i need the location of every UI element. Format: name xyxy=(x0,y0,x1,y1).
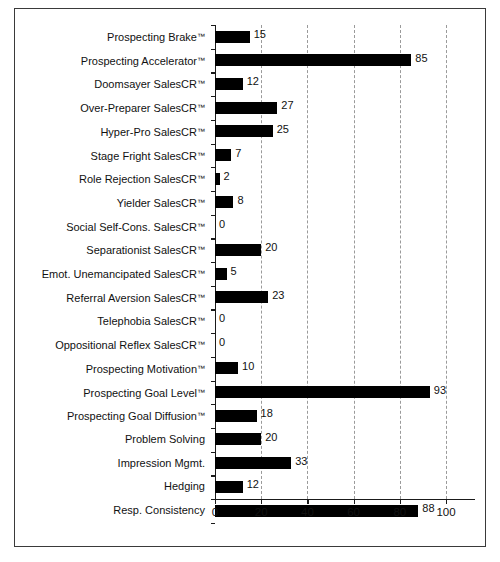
category-axis-tick xyxy=(211,286,215,287)
bar-row: 20 xyxy=(215,428,475,452)
category-label: Referral Aversion SalesCR™ xyxy=(33,286,209,310)
bar-value-label: 20 xyxy=(265,241,277,254)
bar-row: 18 xyxy=(215,404,475,428)
bar xyxy=(215,149,231,161)
category-axis-labels: Prospecting Brake™Prospecting Accelerato… xyxy=(33,25,209,499)
category-axis-tick xyxy=(211,72,215,73)
bar xyxy=(215,102,277,114)
category-label: Problem Solving xyxy=(33,428,209,452)
category-label: Prospecting Goal Level™ xyxy=(33,381,209,405)
bar-row: 5 xyxy=(215,262,475,286)
category-axis-tick xyxy=(211,262,215,263)
bar-value-label: 5 xyxy=(231,265,237,278)
category-label: Resp. Consistency xyxy=(33,499,209,523)
value-axis-tick xyxy=(354,499,355,504)
bar xyxy=(215,31,250,43)
category-label: Separationist SalesCR™ xyxy=(33,238,209,262)
value-axis-tick-label: 0 xyxy=(212,505,218,519)
category-label: Yielder SalesCR™ xyxy=(33,191,209,215)
bar-value-label: 15 xyxy=(254,28,266,41)
value-axis-tick-label: 80 xyxy=(393,505,406,519)
bar-row: 27 xyxy=(215,96,475,120)
category-label: Doomsayer SalesCR™ xyxy=(33,72,209,96)
bar-row: 23 xyxy=(215,286,475,310)
category-label: Over-Preparer SalesCR™ xyxy=(33,96,209,120)
bar-value-label: 18 xyxy=(261,407,273,420)
bar-value-label: 0 xyxy=(219,336,225,349)
bar-value-label: 2 xyxy=(224,170,230,183)
category-axis-tick xyxy=(211,309,215,310)
bar-row: 0 xyxy=(215,215,475,239)
value-axis-tick-label: 60 xyxy=(347,505,360,519)
plot-area: 15851227257280205230010931820331288 xyxy=(215,25,475,499)
bar-row: 20 xyxy=(215,238,475,262)
bar-value-label: 20 xyxy=(265,431,277,444)
category-label: Social Self-Cons. SalesCR™ xyxy=(33,215,209,239)
category-axis-tick xyxy=(211,428,215,429)
category-axis-tick xyxy=(211,191,215,192)
bar xyxy=(215,244,261,256)
bar-value-label: 7 xyxy=(235,147,241,160)
category-label: Emot. Unemancipated SalesCR™ xyxy=(33,262,209,286)
category-axis-tick xyxy=(211,144,215,145)
bar-value-label: 0 xyxy=(219,312,225,325)
bar xyxy=(215,196,233,208)
category-label: Stage Fright SalesCR™ xyxy=(33,144,209,168)
category-axis-tick xyxy=(211,96,215,97)
bar-row: 12 xyxy=(215,72,475,96)
value-axis-tick xyxy=(261,499,262,504)
value-axis-tick-labels: 020406080100 xyxy=(215,505,495,525)
bar-value-label: 12 xyxy=(247,75,259,88)
category-axis-tick xyxy=(211,49,215,50)
category-axis-tick xyxy=(211,333,215,334)
bar-value-label: 27 xyxy=(281,99,293,112)
category-label: Hedging xyxy=(33,475,209,499)
category-axis-tick xyxy=(211,357,215,358)
value-axis-tick xyxy=(446,499,447,504)
category-label: Prospecting Goal Diffusion™ xyxy=(33,404,209,428)
bar-row: 0 xyxy=(215,333,475,357)
category-axis-tick xyxy=(211,475,215,476)
bar xyxy=(215,291,268,303)
bar-row: 15 xyxy=(215,25,475,49)
category-label: Prospecting Motivation™ xyxy=(33,357,209,381)
category-axis-tick xyxy=(211,452,215,453)
bar-value-label: 0 xyxy=(219,218,225,231)
bar-value-label: 10 xyxy=(242,360,254,373)
value-axis-tick xyxy=(400,499,401,504)
value-axis-tick xyxy=(215,499,216,504)
bar xyxy=(215,268,227,280)
bar xyxy=(215,54,411,66)
category-label: Role Rejection SalesCR™ xyxy=(33,167,209,191)
bar-row: 0 xyxy=(215,309,475,333)
bar-row: 85 xyxy=(215,49,475,73)
bar-row: 12 xyxy=(215,475,475,499)
value-axis-tick-label: 20 xyxy=(255,505,268,519)
bar xyxy=(215,410,257,422)
category-label: Impression Mgmt. xyxy=(33,452,209,476)
category-label: Prospecting Accelerator™ xyxy=(33,49,209,73)
bar xyxy=(215,433,261,445)
bar-value-label: 8 xyxy=(237,194,243,207)
bar-value-label: 25 xyxy=(277,123,289,136)
bar xyxy=(215,78,243,90)
bar xyxy=(215,481,243,493)
value-axis-tick xyxy=(307,499,308,504)
category-axis-tick xyxy=(211,404,215,405)
category-axis-tick xyxy=(211,120,215,121)
category-label: Oppositional Reflex SalesCR™ xyxy=(33,333,209,357)
bar-row: 2 xyxy=(215,167,475,191)
category-axis-tick xyxy=(211,215,215,216)
value-axis-tick-label: 100 xyxy=(436,505,455,519)
bar xyxy=(215,457,291,469)
category-label: Hyper-Pro SalesCR™ xyxy=(33,120,209,144)
category-axis-tick xyxy=(211,238,215,239)
bar-row: 93 xyxy=(215,381,475,405)
chart-frame: Prospecting Brake™Prospecting Accelerato… xyxy=(14,8,486,547)
category-axis-tick xyxy=(211,167,215,168)
category-label: Prospecting Brake™ xyxy=(33,25,209,49)
value-axis-tick-label: 40 xyxy=(301,505,314,519)
bar-value-label: 85 xyxy=(415,52,427,65)
bar xyxy=(215,173,220,185)
bar xyxy=(215,125,273,137)
